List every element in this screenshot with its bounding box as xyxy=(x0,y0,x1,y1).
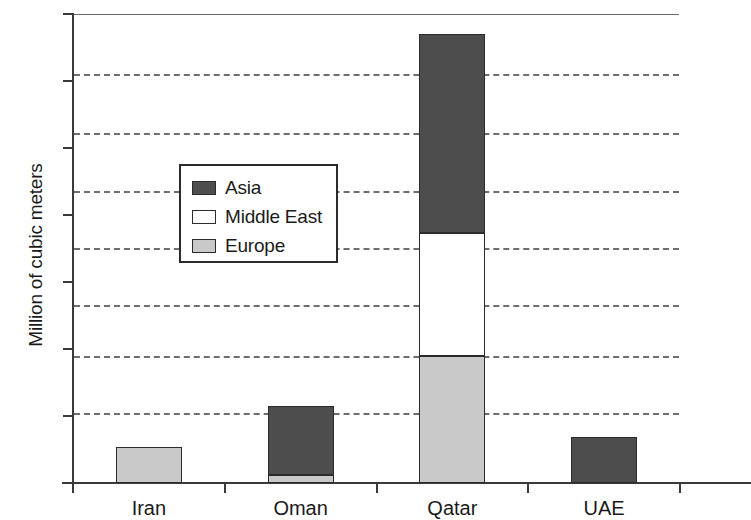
y-axis-tick xyxy=(63,348,74,350)
x-axis-label-qatar: Qatar xyxy=(382,497,522,520)
bar-segment-europe xyxy=(116,447,182,483)
y-axis-tick xyxy=(63,214,74,216)
bar-segment-middle-east xyxy=(419,233,485,356)
legend-label-middle-east: Middle East xyxy=(225,206,322,228)
bar-segment-europe xyxy=(419,356,485,483)
y-axis-tick xyxy=(63,13,74,15)
x-axis-tick xyxy=(527,482,529,493)
bar-iran xyxy=(116,14,182,483)
legend-item: Europe xyxy=(192,231,336,260)
x-axis-tick xyxy=(376,482,378,493)
bar-segment-asia xyxy=(268,406,334,475)
legend-swatch-asia xyxy=(192,181,216,195)
y-axis-tick xyxy=(63,281,74,283)
y-axis-tick xyxy=(63,147,74,149)
y-axis-tick xyxy=(63,415,74,417)
bar-segment-asia xyxy=(419,34,485,233)
legend-item: Middle East xyxy=(192,202,336,231)
bar-segment-europe xyxy=(268,475,334,483)
x-axis-label-iran: Iran xyxy=(79,497,219,520)
bar-qatar xyxy=(419,14,485,483)
legend-label-asia: Asia xyxy=(225,177,261,199)
legend-swatch-middle-east xyxy=(192,210,216,224)
y-axis-tick xyxy=(63,80,74,82)
bar-segment-asia xyxy=(571,437,637,483)
legend: Asia Middle East Europe xyxy=(179,164,338,263)
plot-area: 010203040506070 IranOmanQatarUAE Asia Mi… xyxy=(72,14,679,483)
x-axis-tick xyxy=(72,482,74,493)
x-axis-label-oman: Oman xyxy=(231,497,371,520)
x-axis-tick xyxy=(224,482,226,493)
bar-uae xyxy=(571,14,637,483)
x-axis-label-uae: UAE xyxy=(534,497,674,520)
legend-swatch-europe xyxy=(192,239,216,253)
legend-label-europe: Europe xyxy=(225,235,285,257)
legend-item: Asia xyxy=(192,173,336,202)
x-axis-tick xyxy=(679,482,681,493)
y-axis-title: Million of cubic meters xyxy=(25,115,47,395)
